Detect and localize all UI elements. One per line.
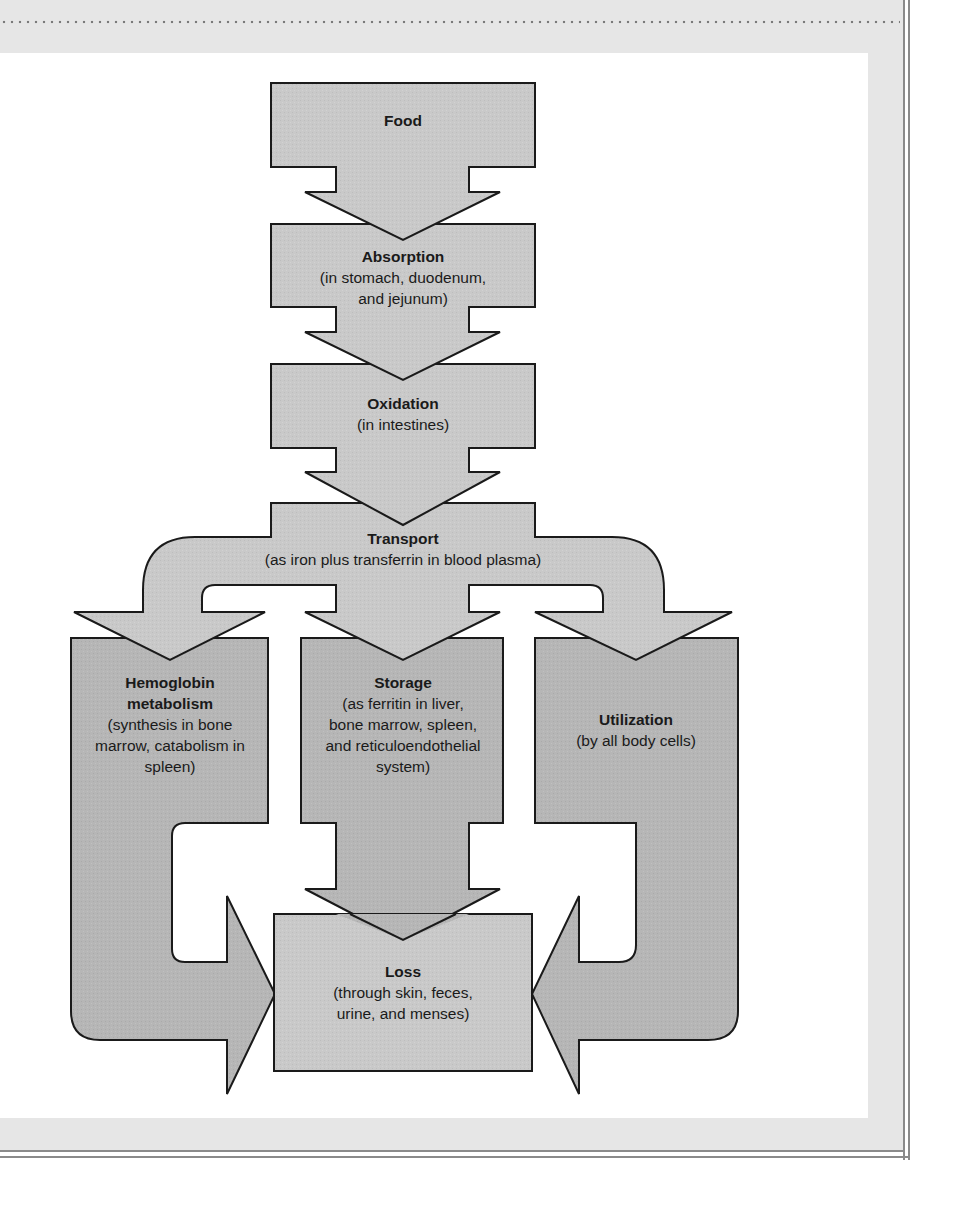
node-hemoglobin-desc-line-1: (synthesis in bone bbox=[73, 714, 268, 735]
node-transport: Transport (as iron plus transferrin in b… bbox=[233, 528, 573, 570]
node-storage-title: Storage bbox=[303, 672, 503, 693]
node-food-title: Food bbox=[384, 110, 422, 131]
node-loss-desc-line-1: (through skin, feces, bbox=[283, 982, 523, 1003]
node-absorption-title: Absorption bbox=[288, 246, 518, 267]
node-storage-desc-line-3: and reticuloendothelial bbox=[303, 735, 503, 756]
node-absorption-desc-line-2: and jejunum) bbox=[288, 288, 518, 309]
node-food: Food bbox=[384, 110, 422, 131]
utilization-shape bbox=[532, 638, 738, 1094]
node-storage-desc-line-2: bone marrow, spleen, bbox=[303, 714, 503, 735]
node-absorption-desc-line-1: (in stomach, duodenum, bbox=[288, 267, 518, 288]
node-hemoglobin-title-line-1: Hemoglobin bbox=[73, 672, 268, 693]
node-loss: Loss (through skin, feces, urine, and me… bbox=[283, 961, 523, 1024]
node-utilization-title: Utilization bbox=[536, 709, 736, 730]
node-storage: Storage (as ferritin in liver, bone marr… bbox=[303, 672, 503, 777]
node-absorption: Absorption (in stomach, duodenum, and je… bbox=[288, 246, 518, 309]
node-oxidation: Oxidation (in intestines) bbox=[288, 393, 518, 435]
node-transport-title: Transport bbox=[233, 528, 573, 549]
node-oxidation-title: Oxidation bbox=[288, 393, 518, 414]
node-oxidation-desc: (in intestines) bbox=[288, 414, 518, 435]
node-utilization: Utilization (by all body cells) bbox=[536, 709, 736, 751]
node-utilization-desc: (by all body cells) bbox=[536, 730, 736, 751]
node-hemoglobin-desc-line-2: marrow, catabolism in bbox=[73, 735, 268, 756]
node-storage-desc-line-4: system) bbox=[303, 756, 503, 777]
transport-shape bbox=[74, 503, 732, 660]
node-hemoglobin: Hemoglobin metabolism (synthesis in bone… bbox=[73, 672, 268, 777]
node-loss-desc-line-2: urine, and menses) bbox=[283, 1003, 523, 1024]
oxidation-shape bbox=[271, 364, 535, 525]
node-hemoglobin-desc-line-3: spleen) bbox=[73, 756, 268, 777]
node-storage-desc-line-1: (as ferritin in liver, bbox=[303, 693, 503, 714]
food-shape bbox=[271, 83, 535, 240]
node-hemoglobin-title-line-2: metabolism bbox=[73, 693, 268, 714]
node-transport-desc: (as iron plus transferrin in blood plasm… bbox=[233, 549, 573, 570]
node-loss-title: Loss bbox=[283, 961, 523, 982]
flowchart-diagram bbox=[0, 0, 955, 1212]
